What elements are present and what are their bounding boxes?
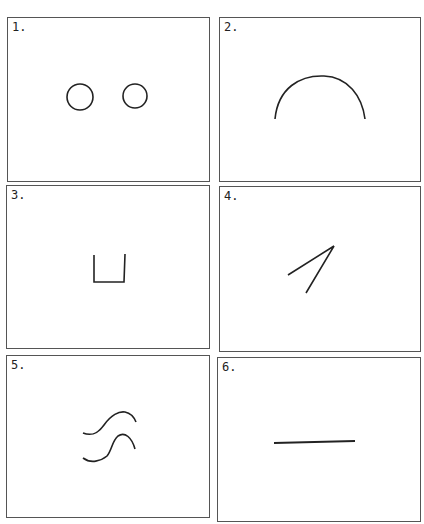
panel-4: 4. bbox=[219, 186, 421, 352]
panel-1: 1. bbox=[7, 17, 210, 182]
two-circles-drawing bbox=[8, 18, 211, 183]
arc-drawing bbox=[220, 18, 422, 183]
panel-2: 2. bbox=[219, 17, 421, 182]
panel-3: 3. bbox=[6, 185, 210, 349]
panel-5: 5. bbox=[6, 355, 210, 518]
straight-line-drawing bbox=[218, 358, 422, 523]
waves-drawing bbox=[7, 356, 211, 519]
angle-drawing bbox=[220, 187, 422, 353]
panel-6: 6. bbox=[217, 357, 421, 522]
u-box-drawing bbox=[7, 186, 211, 350]
